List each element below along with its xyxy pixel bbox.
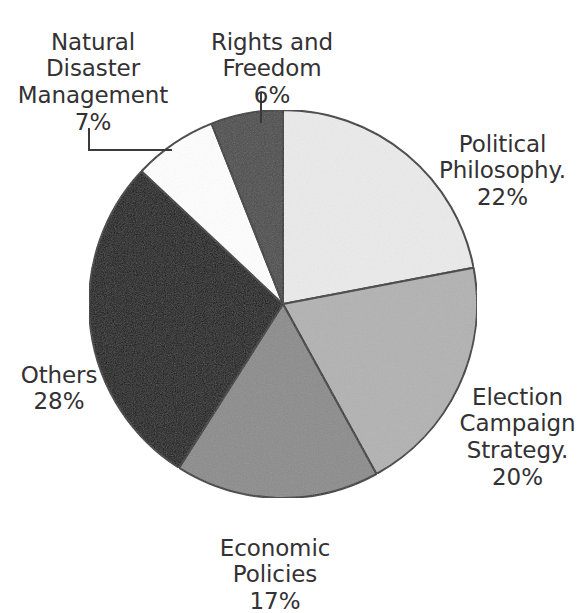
slice-label-percent: 28% bbox=[0, 388, 118, 415]
slice-label-text: Election Campaign Strategy. bbox=[459, 384, 575, 463]
slice-label-political-philosophy: Political Philosophy. 22% bbox=[418, 104, 587, 237]
slice-label-percent: 22% bbox=[418, 184, 587, 211]
slice-label-percent: 6% bbox=[186, 82, 358, 109]
slice-label-natural-disaster-management: Natural Disaster Management 7% bbox=[0, 2, 186, 162]
slice-label-percent: 20% bbox=[448, 464, 587, 491]
slice-label-text: Natural Disaster Management bbox=[18, 29, 169, 108]
slice-label-rights-and-freedom: Rights and Freedom 6% bbox=[186, 2, 358, 135]
slice-label-text: Political Philosophy. bbox=[439, 131, 566, 184]
slice-label-percent: 17% bbox=[158, 588, 392, 613]
slice-label-economic-policies: Economic Policies 17% bbox=[158, 508, 392, 613]
slice-label-percent: 7% bbox=[0, 109, 186, 136]
slice-label-text: Economic Policies bbox=[220, 535, 331, 588]
slice-label-text: Rights and Freedom bbox=[211, 29, 333, 82]
slice-label-others: Others 28% bbox=[0, 335, 118, 442]
slice-label-text: Others bbox=[21, 362, 98, 388]
slice-label-election-campaign-strategy: Election Campaign Strategy. 20% bbox=[448, 357, 587, 517]
